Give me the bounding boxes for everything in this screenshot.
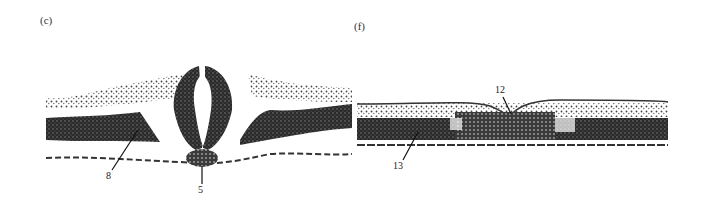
callout-5: 5 bbox=[198, 184, 203, 195]
panel-label-c: (c) bbox=[40, 14, 52, 26]
panel-label-f: (f) bbox=[354, 20, 365, 32]
callout-13: 13 bbox=[393, 160, 403, 171]
callout-8: 8 bbox=[106, 170, 111, 181]
panel-f-section bbox=[357, 100, 668, 145]
panel-c-section bbox=[46, 66, 352, 167]
callout-12: 12 bbox=[495, 84, 505, 95]
